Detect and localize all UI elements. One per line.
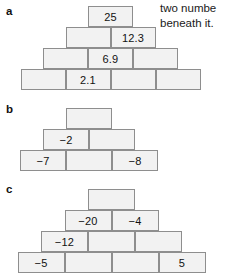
pyramid-cell-filled[interactable]: −20 [65,210,112,231]
pyramid-cell-empty[interactable] [21,69,66,90]
instruction-line-1: two numbe [160,1,242,16]
pyramid-cell-empty[interactable] [111,69,156,90]
pyramid-cell-filled[interactable]: 12.3 [111,27,156,48]
pyramid-cell-filled[interactable]: −8 [112,150,158,171]
pyramid-cell-empty[interactable] [43,48,88,69]
pyramid-cell-value: −5 [35,258,48,269]
pyramid-cell-value: −12 [55,237,74,248]
pyramid-cell-value: 25 [104,12,117,23]
pyramid-cell-filled[interactable]: 5 [159,252,206,273]
pyramid-cell-value: 12.3 [122,33,144,44]
pyramid-cell-empty[interactable] [156,69,201,90]
pyramid-cell-filled[interactable]: −12 [41,231,88,252]
section-label-a: a [6,6,12,18]
pyramid-cell-value: 2.1 [80,75,96,86]
section-label-c: c [6,184,12,196]
pyramid-cell-empty[interactable] [135,231,182,252]
pyramid-cell-empty[interactable] [112,252,159,273]
pyramid-cell-value: 5 [179,258,185,269]
pyramid-cell-filled[interactable]: −4 [112,210,159,231]
pyramid-cell-filled[interactable]: 2.1 [66,69,111,90]
pyramid-cell-empty[interactable] [66,108,112,129]
pyramid-cell-value: −2 [60,135,73,146]
pyramid-cell-filled[interactable]: 25 [88,6,133,27]
pyramid-cell-empty[interactable] [88,189,135,210]
instruction-text: two numbe beneath it. [160,1,242,30]
pyramid-cell-filled[interactable]: −2 [43,129,89,150]
pyramid-cell-empty[interactable] [88,231,135,252]
pyramid-cell-value: −20 [78,216,97,227]
pyramid-cell-value: −4 [129,216,142,227]
pyramid-cell-empty[interactable] [66,150,112,171]
pyramid-cell-filled[interactable]: −5 [18,252,65,273]
pyramid-cell-value: −8 [129,156,142,167]
pyramid-cell-empty[interactable] [66,27,111,48]
pyramid-cell-value: −7 [37,156,50,167]
pyramid-cell-empty[interactable] [89,129,135,150]
pyramid-cell-empty[interactable] [65,252,112,273]
worksheet-page: two numbe beneath it. a b c 2512.36.92.1… [0,0,242,274]
pyramid-cell-filled[interactable]: −7 [20,150,66,171]
pyramid-cell-filled[interactable]: 6.9 [88,48,133,69]
pyramid-cell-empty[interactable] [133,48,178,69]
instruction-line-2: beneath it. [160,16,242,31]
section-label-b: b [6,104,13,116]
pyramid-cell-value: 6.9 [103,54,119,65]
